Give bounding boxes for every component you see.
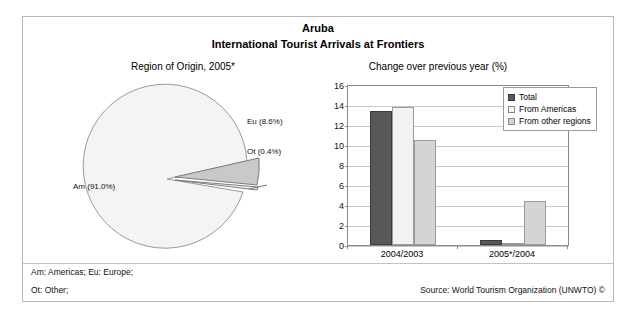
legend-item-total: Total — [508, 91, 591, 103]
x-tick-label-2005--2004: 2005*/2004 — [457, 249, 567, 259]
pie-chart-caption: Region of Origin, 2005* — [83, 61, 283, 72]
legend-item-from-other-regions: From other regions — [508, 115, 591, 127]
bar-from-other-regions-2005--2004 — [524, 201, 546, 245]
pie-label-other: Ot (0.4%) — [247, 147, 281, 156]
bar-total-2004-2003 — [370, 111, 392, 245]
y-tick-label-10: 10 — [334, 141, 344, 151]
pie-chart-svg — [71, 81, 311, 261]
legend-swatch-from-other-regions — [508, 118, 515, 125]
y-tick-label-2: 2 — [339, 221, 344, 231]
y-tick-label-6: 6 — [339, 181, 344, 191]
gridline-0 — [348, 246, 568, 247]
bar-chart-caption: Change over previous year (%) — [323, 61, 553, 72]
y-tick-label-8: 8 — [339, 161, 344, 171]
pie-label-americas: Am (91.0%) — [73, 182, 115, 191]
footnote-key-line2: Ot: Other; — [31, 285, 68, 295]
y-tick-label-4: 4 — [339, 201, 344, 211]
bar-chart: 0246810121416 2004/20032005*/2004 Total … — [323, 79, 593, 269]
bar-group-2004-2003 — [348, 86, 458, 245]
legend-label-from-other-regions: From other regions — [519, 115, 591, 127]
x-tick-label-2004-2003: 2004/2003 — [347, 249, 457, 259]
x-tick-mark-origin — [347, 245, 348, 249]
chart-panel: Aruba International Tourist Arrivals at … — [22, 16, 614, 302]
legend-item-from-americas: From Americas — [508, 103, 591, 115]
y-tick-label-16: 16 — [334, 81, 344, 91]
legend-label-total: Total — [519, 91, 537, 103]
y-tick-label-0: 0 — [339, 241, 344, 251]
page-subtitle: International Tourist Arrivals at Fronti… — [23, 38, 613, 50]
bar-from-americas-2004-2003 — [392, 107, 414, 245]
y-tick-label-14: 14 — [334, 101, 344, 111]
page-title: Aruba — [23, 22, 613, 34]
x-tick-mark-1 — [567, 245, 568, 249]
bar-chart-x-axis — [347, 245, 569, 246]
bar-chart-legend: Total From Americas From other regions — [503, 87, 597, 131]
legend-swatch-from-americas — [508, 106, 515, 113]
legend-swatch-total — [508, 94, 515, 101]
footer-divider — [23, 263, 613, 264]
source-note: Source: World Tourism Organization (UNWT… — [420, 285, 605, 295]
bar-from-other-regions-2004-2003 — [414, 140, 436, 245]
pie-label-europe: Eu (8.6%) — [247, 117, 283, 126]
footnote-key-line1: Am: Americas; Eu: Europe; — [31, 267, 133, 277]
pie-chart: Am (91.0%) Eu (8.6%) Ot (0.4%) — [71, 81, 311, 261]
legend-label-from-americas: From Americas — [519, 103, 576, 115]
y-tick-label-12: 12 — [334, 121, 344, 131]
